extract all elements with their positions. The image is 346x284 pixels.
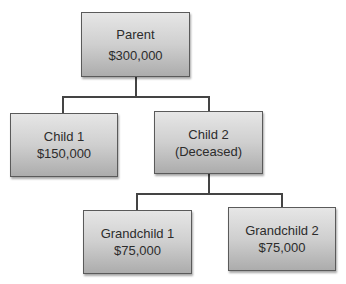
node-grandchild-2-label: Grandchild 2 (245, 222, 319, 239)
connector-child1-up (62, 96, 64, 113)
node-parent: Parent $300,000 (81, 12, 190, 77)
connector-children-bar (62, 96, 210, 98)
node-grandchild-2-value: $75,000 (259, 239, 306, 256)
connector-child2-down (208, 174, 210, 195)
connector-parent-down (135, 77, 137, 98)
node-parent-label: Parent (116, 26, 154, 43)
node-child-2-label: Child 2 (188, 126, 228, 143)
node-parent-value: $300,000 (108, 47, 162, 64)
node-grandchild-1-label: Grandchild 1 (101, 225, 175, 242)
connector-grandchild1-up (136, 193, 138, 210)
connector-child2-up (208, 96, 210, 111)
node-child-2: Child 2 (Deceased) (154, 111, 263, 174)
node-child-1-label: Child 1 (44, 128, 84, 145)
node-child-1: Child 1 $150,000 (10, 113, 118, 177)
connector-grandchild2-up (281, 193, 283, 207)
node-grandchild-2: Grandchild 2 $75,000 (228, 207, 336, 271)
node-grandchild-1-value: $75,000 (114, 242, 161, 259)
node-grandchild-1: Grandchild 1 $75,000 (83, 210, 192, 274)
node-child-1-value: $150,000 (37, 145, 91, 162)
connector-grandchildren-bar (136, 193, 283, 195)
node-child-2-status: (Deceased) (175, 143, 242, 160)
